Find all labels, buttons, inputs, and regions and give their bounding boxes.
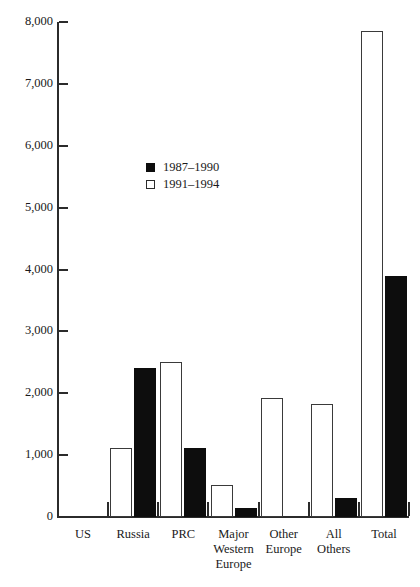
- bar-1991-1994: [160, 362, 182, 517]
- y-axis-tick-label: 7,000: [0, 77, 53, 89]
- category-separator-tick: [358, 502, 360, 516]
- legend-label: 1991–1994: [163, 178, 219, 191]
- y-axis-tick: [59, 145, 68, 147]
- y-axis-tick-label: 5,000: [0, 201, 53, 213]
- y-axis-tick: [59, 21, 68, 23]
- category-separator-tick: [157, 502, 159, 516]
- y-axis-tick-label: 6,000: [0, 139, 53, 151]
- y-axis-tick-label: 2,000: [0, 386, 53, 398]
- category-separator-tick: [258, 502, 260, 516]
- y-axis-tick-label: 3,000: [0, 324, 53, 336]
- bar-1991-1994: [311, 404, 333, 517]
- bar-1991-1994: [361, 31, 383, 517]
- bar-1991-1994: [110, 448, 132, 517]
- y-axis-tick: [59, 392, 68, 394]
- category-separator-tick: [107, 502, 109, 516]
- y-axis-tick: [59, 454, 68, 456]
- x-axis-category-label-line: Total: [344, 527, 420, 542]
- chart-legend: 1987–19901991–1994: [146, 159, 219, 193]
- bar-1987-1990: [235, 508, 257, 517]
- legend-item: 1991–1994: [146, 176, 219, 193]
- category-separator-tick: [207, 502, 209, 516]
- y-axis-tick-label: 0: [0, 510, 53, 522]
- y-axis-tick-label: 8,000: [0, 15, 53, 27]
- category-separator-tick: [308, 502, 310, 516]
- legend-item: 1987–1990: [146, 159, 219, 176]
- bar-1987-1990: [385, 276, 407, 517]
- bar-1987-1990: [184, 448, 206, 517]
- bar-1987-1990: [335, 498, 357, 517]
- y-axis-tick: [59, 269, 68, 271]
- bar-1991-1994: [261, 398, 283, 517]
- legend-swatch-white: [146, 180, 155, 189]
- y-axis-tick: [59, 330, 68, 332]
- x-axis-category-label-line: Others: [294, 542, 374, 557]
- bar-chart: 01,0002,0003,0004,0005,0006,0007,0008,00…: [0, 0, 420, 587]
- legend-swatch-black: [146, 163, 155, 172]
- bar-1991-1994: [211, 485, 233, 517]
- legend-label: 1987–1990: [163, 161, 219, 174]
- category-separator-tick: [408, 502, 410, 516]
- y-axis-tick-label: 1,000: [0, 448, 53, 460]
- bar-1987-1990: [134, 368, 156, 517]
- x-axis-category-label: Total: [344, 527, 420, 542]
- y-axis-tick-label: 4,000: [0, 263, 53, 275]
- x-axis-category-label-line: Europe: [194, 557, 274, 572]
- y-axis-tick: [59, 207, 68, 209]
- y-axis-tick: [59, 83, 68, 85]
